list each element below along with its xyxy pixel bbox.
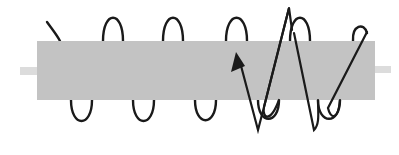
coil-upper-loops bbox=[47, 18, 367, 41]
solenoid-diagram bbox=[0, 0, 399, 155]
coil-lead-left bbox=[47, 22, 60, 41]
coil-loop-lower-2 bbox=[133, 100, 154, 121]
coil-loop-lower-1 bbox=[71, 100, 92, 121]
coil-lower-loops bbox=[71, 100, 340, 121]
coil-loop-upper-3 bbox=[226, 18, 247, 41]
coil-loop-upper-1 bbox=[103, 18, 123, 41]
coil-loop-upper-2 bbox=[163, 18, 183, 41]
core-stub-left bbox=[20, 67, 37, 75]
core-stub-right bbox=[375, 66, 391, 73]
iron-core-rod bbox=[37, 41, 375, 100]
coil-loop-lower-3 bbox=[195, 100, 216, 120]
